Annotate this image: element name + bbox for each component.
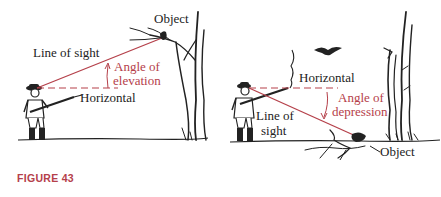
label-angle-of-right: Angle of [338,91,384,105]
angle-arc-elevation [107,65,108,88]
figure-caption: FIGURE 43 [17,172,74,184]
figure-illustration [0,0,441,160]
label-elevation: elevation [113,74,161,88]
object-pointer [370,146,380,152]
ground-line [18,138,208,140]
label-depression: depression [332,105,388,119]
flying-bird-icon [314,47,342,55]
sapling [290,50,294,88]
label-horizontal-right: Horizontal [299,71,355,85]
label-line-of-sight-left: Line of sight [33,46,99,60]
tree-right [384,12,418,140]
label-sight-right: sight [261,124,286,138]
observer-figure [24,84,82,140]
label-line-of-right: Line of [256,109,294,123]
label-horizontal-left: Horizontal [80,91,136,105]
label-angle-of-left: Angle of [114,60,160,74]
label-object-right: Object [380,145,415,159]
label-object-left: Object [154,12,189,26]
